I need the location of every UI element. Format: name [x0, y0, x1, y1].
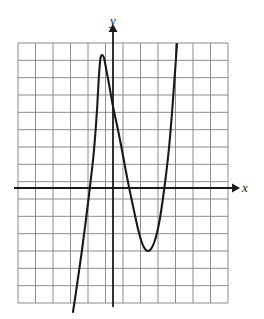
graph-figure: x y [0, 0, 264, 319]
canvas-background [0, 0, 264, 319]
y-axis-label: y [108, 13, 116, 28]
x-axis-label: x [241, 180, 248, 195]
coordinate-plane-svg: x y [0, 0, 264, 319]
